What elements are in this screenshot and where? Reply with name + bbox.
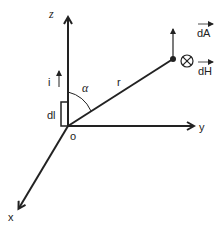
dl-element	[61, 102, 68, 126]
dl-label: dl	[47, 109, 56, 121]
current-label: i	[48, 76, 50, 88]
z-axis-label: z	[48, 7, 54, 21]
into-page-icon	[181, 55, 193, 67]
dh-label: dH	[198, 65, 212, 77]
r-label: r	[117, 76, 121, 88]
x-axis-label: x	[8, 211, 14, 223]
x-axis	[19, 126, 68, 208]
alpha-label: α	[82, 81, 89, 95]
y-axis-label: y	[199, 121, 205, 133]
da-label: dA	[197, 27, 211, 39]
biot-savart-diagram: z y x o i dl α r dA dH	[0, 0, 222, 233]
origin-label: o	[70, 130, 76, 142]
